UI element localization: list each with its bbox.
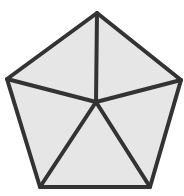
pentagon-diagram <box>0 0 184 196</box>
spoke-to-top <box>96 13 97 102</box>
